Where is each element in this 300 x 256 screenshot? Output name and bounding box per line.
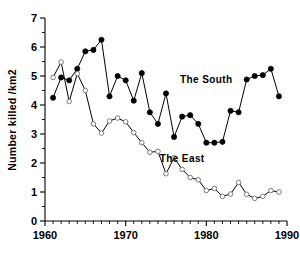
- y-tick-label: 4: [31, 99, 38, 111]
- data-point: [269, 188, 274, 193]
- data-point: [180, 167, 185, 172]
- y-tick-label: 0: [31, 215, 37, 227]
- data-point: [236, 180, 241, 185]
- y-tick-label: 1: [31, 186, 37, 198]
- series-label-the-east: The East: [160, 153, 205, 164]
- data-point: [107, 119, 112, 124]
- data-point: [244, 77, 249, 82]
- x-tick-label: 1980: [194, 229, 218, 241]
- data-point: [115, 116, 120, 121]
- data-point: [91, 122, 96, 127]
- data-point: [147, 110, 152, 115]
- data-point: [75, 66, 80, 71]
- data-point: [220, 139, 225, 144]
- y-axis-title: Number killed /km2: [6, 69, 18, 171]
- data-point: [228, 108, 233, 113]
- data-point: [51, 75, 56, 80]
- data-point: [131, 130, 136, 135]
- data-point: [123, 78, 128, 83]
- line-chart: 01234567 1960197019801990 Number killed …: [0, 0, 300, 256]
- data-point: [188, 175, 193, 180]
- data-point: [67, 78, 72, 83]
- data-point: [107, 94, 112, 99]
- series-label-the-south: The South: [180, 74, 232, 85]
- data-point: [204, 188, 209, 193]
- data-point: [212, 186, 217, 191]
- x-tick-label: 1990: [275, 229, 299, 241]
- data-point: [196, 121, 201, 126]
- data-point: [260, 73, 265, 78]
- data-point: [123, 120, 128, 125]
- data-point: [220, 194, 225, 199]
- data-point: [67, 99, 72, 104]
- data-point: [59, 60, 64, 65]
- data-point: [180, 114, 185, 119]
- data-point: [140, 140, 145, 145]
- data-point: [99, 131, 104, 136]
- y-tick-label: 3: [31, 128, 37, 140]
- data-point: [252, 196, 257, 201]
- y-tick-label: 6: [31, 41, 37, 53]
- data-point: [261, 194, 266, 199]
- data-point: [188, 113, 193, 118]
- x-tick-label: 1970: [113, 229, 137, 241]
- data-point: [131, 98, 136, 103]
- data-point: [244, 192, 249, 197]
- chart-figure: 01234567 1960197019801990 Number killed …: [0, 0, 300, 256]
- data-point: [163, 91, 168, 96]
- data-point: [164, 171, 169, 176]
- y-tick-label: 5: [31, 70, 37, 82]
- data-point: [196, 178, 201, 183]
- data-point: [155, 121, 160, 126]
- data-point: [148, 150, 153, 155]
- data-point: [50, 95, 55, 100]
- data-point: [115, 73, 120, 78]
- data-point: [277, 190, 282, 195]
- y-tick-label: 7: [31, 12, 37, 24]
- data-point: [59, 75, 64, 80]
- data-point: [276, 94, 281, 99]
- data-point: [75, 71, 80, 76]
- data-point: [204, 140, 209, 145]
- data-point: [91, 47, 96, 52]
- data-point: [99, 37, 104, 42]
- data-point: [268, 66, 273, 71]
- data-point: [212, 140, 217, 145]
- data-point: [228, 192, 233, 197]
- x-tick-label: 1960: [33, 229, 57, 241]
- data-point: [139, 71, 144, 76]
- data-point: [236, 110, 241, 115]
- data-point: [83, 88, 88, 93]
- data-point: [252, 73, 257, 78]
- data-point: [171, 134, 176, 139]
- y-tick-label: 2: [31, 157, 37, 169]
- data-point: [83, 49, 88, 54]
